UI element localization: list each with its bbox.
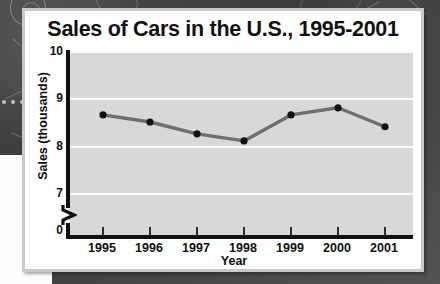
data-point-marker: 1998: 8.1 — [240, 137, 247, 144]
series-line — [103, 108, 385, 141]
data-point-marker: 2001: 8.4 — [381, 123, 388, 130]
data-point-marker: 1997: 8.25 — [193, 130, 200, 137]
data-point-marker: 1996: 8.5 — [146, 118, 153, 125]
data-point-marker: 1999: 8.65 — [287, 111, 294, 118]
data-point-marker: 2000: 8.8 — [334, 104, 341, 111]
chalk-dots-icon — [2, 100, 24, 104]
chart-card: Sales of Cars in the U.S., 1995-2001 109… — [22, 8, 424, 272]
data-point-marker: 1995: 8.65 — [99, 111, 106, 118]
data-series: 1995: 8.651996: 8.51997: 8.251998: 8.119… — [25, 11, 427, 275]
